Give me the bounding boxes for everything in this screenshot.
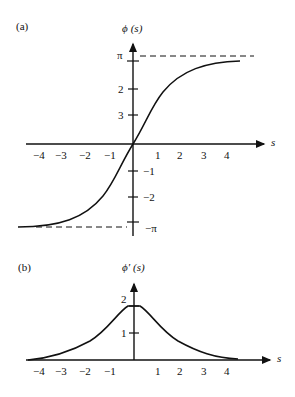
svg-text:−3: −3 bbox=[55, 149, 67, 161]
svg-text:−1: −1 bbox=[104, 365, 116, 377]
a-ytick-m1: −1 bbox=[143, 165, 155, 177]
a-x-axis-label: s bbox=[271, 136, 275, 148]
svg-text:−4: −4 bbox=[33, 365, 45, 377]
b-x-axis-label: s bbox=[277, 352, 281, 364]
panel-b: (b) ϕ′(s) s 2 1 −4 −3 −2 −1 1 2 3 4 bbox=[18, 261, 281, 377]
svg-text:3: 3 bbox=[201, 365, 207, 377]
svg-text:1: 1 bbox=[155, 149, 161, 161]
a-x-ticks: −4 −3 −2 −1 1 2 3 4 bbox=[33, 149, 230, 161]
a-ytick-m2: −2 bbox=[143, 191, 155, 203]
a-ytick-pi: π bbox=[117, 49, 123, 61]
b-ytick-2: 2 bbox=[121, 293, 127, 305]
a-y-axis-label: ϕ(s) bbox=[122, 22, 143, 35]
svg-text:4: 4 bbox=[224, 149, 230, 161]
panel-b-label: (b) bbox=[18, 261, 31, 274]
svg-text:3: 3 bbox=[201, 149, 207, 161]
b-y-axis-label: ϕ′(s) bbox=[122, 261, 145, 274]
svg-text:2: 2 bbox=[177, 149, 183, 161]
a-ytick-3: 3 bbox=[118, 109, 124, 121]
panel-a: (a) ϕ(s) s π 2 3 −1 −2 −π −4 −3 −2 −1 bbox=[16, 20, 275, 236]
svg-text:−2: −2 bbox=[79, 149, 91, 161]
b-ytick-1: 1 bbox=[121, 327, 127, 339]
a-ytick-2: 2 bbox=[118, 83, 124, 95]
svg-text:−1: −1 bbox=[104, 149, 116, 161]
svg-text:−2: −2 bbox=[79, 365, 91, 377]
svg-text:4: 4 bbox=[224, 365, 230, 377]
svg-text:−3: −3 bbox=[55, 365, 67, 377]
svg-text:2: 2 bbox=[177, 365, 183, 377]
svg-text:1: 1 bbox=[155, 365, 161, 377]
svg-text:−4: −4 bbox=[33, 149, 45, 161]
figure: (a) ϕ(s) s π 2 3 −1 −2 −π −4 −3 −2 −1 bbox=[0, 0, 295, 397]
panel-a-label: (a) bbox=[16, 20, 29, 33]
b-x-ticks: −4 −3 −2 −1 1 2 3 4 bbox=[33, 365, 230, 377]
a-ytick-mpi: −π bbox=[145, 222, 157, 234]
